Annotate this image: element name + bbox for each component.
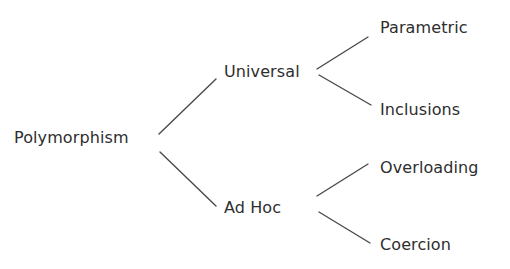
node-parametric: Parametric: [380, 18, 468, 38]
edge-universal-parametric: [317, 37, 368, 69]
edge-universal-inclusions: [319, 75, 371, 105]
edge-adhoc-coercion: [319, 212, 370, 243]
node-ad-hoc: Ad Hoc: [224, 198, 281, 218]
node-overloading: Overloading: [380, 158, 479, 178]
node-universal: Universal: [224, 62, 300, 82]
node-inclusions: Inclusions: [380, 100, 460, 120]
node-polymorphism: Polymorphism: [14, 128, 129, 148]
edge-polymorphism-adhoc: [160, 152, 216, 206]
edge-polymorphism-universal: [159, 79, 216, 134]
edge-adhoc-overloading: [317, 164, 368, 196]
polymorphism-tree-diagram: Polymorphism Universal Ad Hoc Parametric…: [0, 0, 510, 269]
node-coercion: Coercion: [380, 235, 451, 255]
